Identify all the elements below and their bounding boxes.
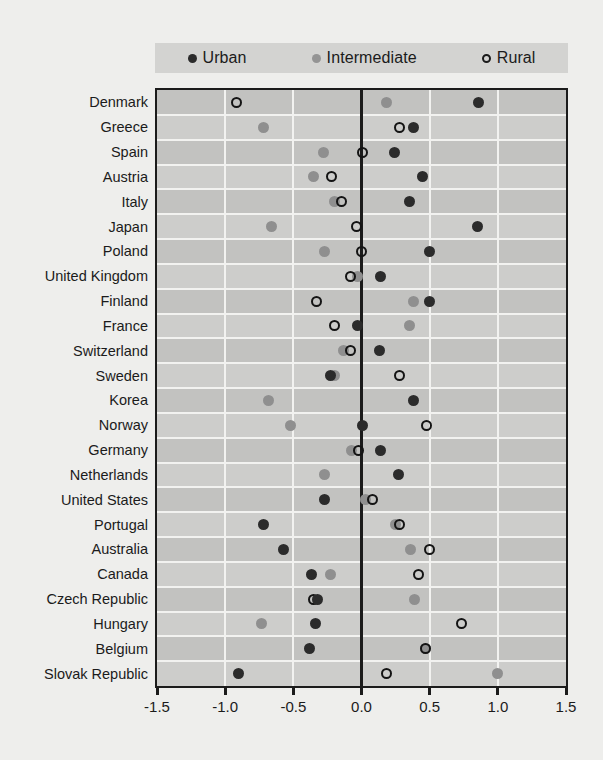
category-label: Slovak Republic — [0, 667, 148, 682]
category-label: Czech Republic — [0, 592, 148, 607]
vertical-gridline — [497, 90, 499, 686]
data-point-urban — [374, 345, 385, 356]
x-axis-tick — [292, 688, 295, 695]
category-label: Korea — [0, 393, 148, 408]
data-point-urban — [408, 395, 419, 406]
category-label: France — [0, 319, 148, 334]
filled-dark-circle-icon — [188, 54, 197, 63]
plot-area — [155, 88, 568, 688]
x-axis-tick — [360, 688, 363, 695]
data-point-rural — [456, 618, 467, 629]
x-axis-tick — [428, 688, 431, 695]
category-label: United States — [0, 493, 148, 508]
data-point-urban — [312, 594, 323, 605]
data-point-rural — [231, 97, 242, 108]
category-label: Portugal — [0, 518, 148, 533]
data-point-urban — [306, 569, 317, 580]
legend-label-urban: Urban — [203, 50, 247, 66]
vertical-gridline — [429, 90, 431, 686]
data-point-urban — [375, 445, 386, 456]
chart-legend: Urban Intermediate Rural — [155, 43, 568, 73]
category-label: Finland — [0, 294, 148, 309]
data-point-rural — [336, 196, 347, 207]
vertical-gridline — [292, 90, 294, 686]
data-point-intermediate — [285, 420, 296, 431]
category-label: Germany — [0, 443, 148, 458]
x-axis-tick — [496, 688, 499, 695]
x-axis-tick — [224, 688, 227, 695]
data-point-rural — [413, 569, 424, 580]
legend-item-intermediate: Intermediate — [312, 50, 417, 66]
data-point-urban — [424, 296, 435, 307]
data-point-rural — [345, 271, 356, 282]
category-label: Norway — [0, 418, 148, 433]
category-label: Canada — [0, 567, 148, 582]
category-label: Hungary — [0, 617, 148, 632]
x-axis-tick-label: -1.5 — [144, 699, 170, 714]
data-point-intermediate — [258, 122, 269, 133]
data-point-intermediate — [325, 569, 336, 580]
data-point-urban — [325, 370, 336, 381]
x-axis-tick — [565, 688, 568, 695]
data-point-urban — [408, 122, 419, 133]
filled-gray-circle-icon — [312, 54, 321, 63]
data-point-rural — [381, 668, 392, 679]
data-point-urban — [258, 519, 269, 530]
category-label: Sweden — [0, 369, 148, 384]
x-axis-tick-label: -0.5 — [280, 699, 306, 714]
category-label: United Kingdom — [0, 269, 148, 284]
x-axis-tick-label: 1.5 — [556, 699, 577, 714]
data-point-intermediate — [318, 147, 329, 158]
category-label: Australia — [0, 542, 148, 557]
zero-reference-line — [360, 90, 363, 686]
data-point-rural — [394, 122, 405, 133]
data-point-intermediate — [409, 594, 420, 605]
data-point-rural — [424, 544, 435, 555]
data-point-intermediate — [405, 544, 416, 555]
category-label: Denmark — [0, 95, 148, 110]
data-point-urban — [424, 246, 435, 257]
legend-item-rural: Rural — [482, 50, 536, 66]
x-axis-tick-label: 0.0 — [351, 699, 372, 714]
x-axis-tick — [156, 688, 159, 695]
category-axis-labels: DenmarkGreeceSpainAustriaItalyJapanPolan… — [0, 88, 148, 688]
data-point-urban — [375, 271, 386, 282]
category-label: Spain — [0, 145, 148, 160]
data-point-urban — [404, 196, 415, 207]
open-circle-icon — [482, 54, 491, 63]
category-label: Poland — [0, 244, 148, 259]
data-point-urban — [310, 618, 321, 629]
vertical-gridline — [224, 90, 226, 686]
category-label: Italy — [0, 195, 148, 210]
legend-item-urban: Urban — [188, 50, 247, 66]
category-label: Austria — [0, 170, 148, 185]
category-label: Greece — [0, 120, 148, 135]
x-axis-tick-label: 0.5 — [419, 699, 440, 714]
data-point-urban — [389, 147, 400, 158]
scatter-chart: Urban Intermediate Rural DenmarkGreeceSp… — [0, 0, 603, 760]
category-label: Belgium — [0, 642, 148, 657]
category-label: Netherlands — [0, 468, 148, 483]
legend-label-intermediate: Intermediate — [327, 50, 417, 66]
legend-label-rural: Rural — [497, 50, 536, 66]
data-point-intermediate — [381, 97, 392, 108]
data-point-intermediate — [408, 296, 419, 307]
x-axis-tick-label: 1.0 — [487, 699, 508, 714]
data-point-rural — [351, 221, 362, 232]
category-label: Switzerland — [0, 344, 148, 359]
data-point-urban — [472, 221, 483, 232]
x-axis-tick-label: -1.0 — [212, 699, 238, 714]
data-point-rural — [356, 246, 367, 257]
data-point-rural — [353, 445, 364, 456]
category-label: Japan — [0, 220, 148, 235]
data-point-rural — [311, 296, 322, 307]
data-point-rural — [357, 147, 368, 158]
